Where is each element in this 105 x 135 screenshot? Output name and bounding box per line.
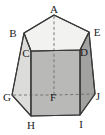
vertex-label-b: B (9, 27, 16, 39)
vertex-label-j: J (96, 90, 101, 102)
pentagonal-prism-figure: A B E C D F G J H I (0, 0, 105, 135)
vertex-label-f: F (50, 91, 56, 103)
vertex-label-a: A (50, 3, 58, 15)
vertex-label-g: G (3, 91, 11, 103)
prism-drawing-canvas: A B E C D F G J H I (0, 0, 105, 135)
vertex-label-e: E (94, 26, 101, 38)
face-front (31, 50, 80, 116)
vertex-label-i: I (79, 118, 83, 130)
vertex-label-c: C (22, 47, 29, 59)
vertex-label-d: D (80, 46, 88, 58)
vertex-label-h: H (27, 119, 35, 131)
